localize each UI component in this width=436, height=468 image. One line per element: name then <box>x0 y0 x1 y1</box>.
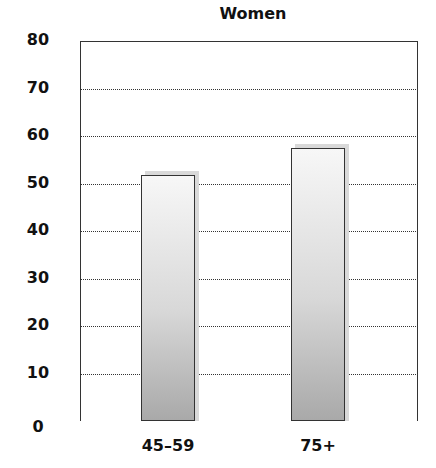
y-tick-label: 50 <box>20 174 56 192</box>
gridline <box>80 326 418 327</box>
gridline <box>80 279 418 280</box>
y-tick-label: 20 <box>20 316 56 334</box>
gridline <box>80 184 418 185</box>
bar-75+ <box>291 148 345 421</box>
gridline <box>80 374 418 375</box>
y-tick-label: 60 <box>20 126 56 144</box>
y-tick-label: 80 <box>20 31 56 49</box>
y-tick-label: 40 <box>20 221 56 239</box>
gridline <box>80 89 418 90</box>
chart-title: Women <box>0 4 436 23</box>
y-tick-label: 30 <box>20 269 56 287</box>
gridline <box>80 231 418 232</box>
x-tick-label: 75+ <box>278 436 358 455</box>
x-tick-label: 45–59 <box>128 436 208 455</box>
y-tick-label: 10 <box>20 364 56 382</box>
gridline <box>80 136 418 137</box>
y-tick-label: 70 <box>20 79 56 97</box>
bar-45–59 <box>141 175 195 421</box>
y-tick-label: 0 <box>20 418 56 436</box>
